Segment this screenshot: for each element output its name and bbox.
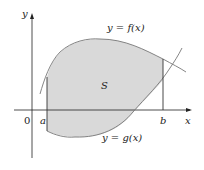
curve-f-label: y = f(x) [106, 22, 145, 33]
x-axis-label: x [185, 115, 191, 126]
bound-a-label: a [40, 115, 46, 126]
bound-b-label: b [160, 115, 166, 126]
curve-g-label: y = g(x) [101, 132, 142, 143]
region-s-label: S [101, 80, 108, 91]
area-between-curves-diagram: y x 0 a b S y = f(x) y = g(x) [0, 0, 204, 170]
y-axis-label: y [21, 8, 28, 19]
origin-label: 0 [24, 115, 30, 126]
y-axis-arrow-icon [30, 13, 34, 19]
x-axis-arrow-icon [186, 108, 192, 112]
